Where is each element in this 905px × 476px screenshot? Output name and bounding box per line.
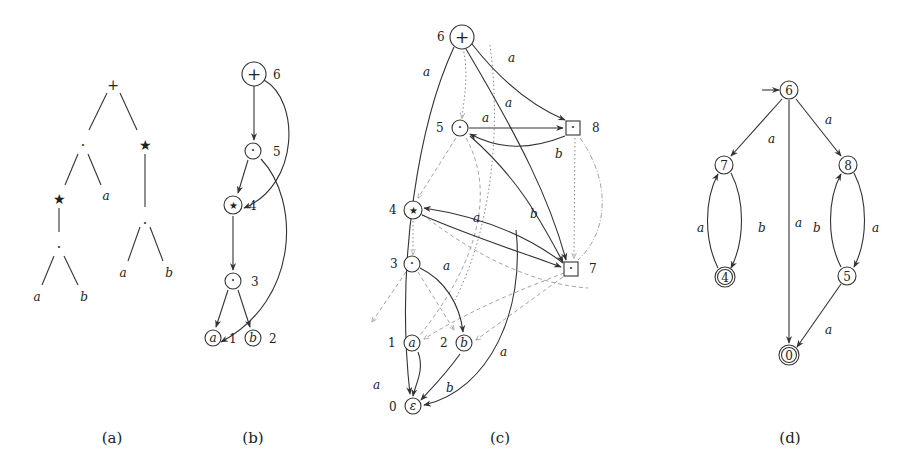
panel-d-automaton: a a a b a a b a 6 7 8 4 5 [697,81,879,365]
graph-node-2: b 2 [440,335,472,351]
svg-text:+: + [455,27,469,47]
svg-text:b: b [249,331,257,345]
svg-text:6: 6 [437,30,445,44]
graph-node-0: ε 0 [389,398,421,414]
svg-text:b: b [813,221,821,235]
tree-node-concat: · [81,137,85,153]
graph-node-6: + 6 [437,25,474,49]
svg-text:7: 7 [589,262,597,276]
svg-text:1: 1 [388,336,396,350]
edge-label: a [373,378,380,392]
svg-text:2: 2 [440,336,448,350]
svg-text:6: 6 [785,84,793,98]
tree-node-star: ★ [53,191,66,207]
svg-text:★: ★ [409,205,418,216]
svg-text:5: 5 [843,270,851,284]
svg-text:b: b [460,336,468,350]
svg-text:a: a [872,221,879,235]
svg-text:a: a [795,216,802,230]
svg-text:a: a [408,336,415,350]
svg-text:0: 0 [785,349,793,363]
graph-node-7: · 7 [564,260,597,276]
caption-d: (d) [779,429,800,447]
svg-text:a: a [209,331,216,345]
svg-text:a: a [697,221,704,235]
svg-text:5: 5 [436,121,444,135]
svg-text:7: 7 [720,159,728,173]
tree-node-star: ★ [139,137,152,153]
state-5: 5 [838,267,856,285]
svg-text:·: · [231,272,235,288]
svg-text:·: · [458,119,462,135]
tree-leaf-a: a [119,266,126,280]
tree-leaf-a: a [102,189,109,203]
panel-b-dag: + 6 · 5 ★ 4 · 3 a 1 b 2 [205,62,289,346]
state-7: 7 [715,156,733,174]
tree-leaf-b: b [165,266,173,280]
svg-text:3: 3 [251,275,259,289]
svg-text:★: ★ [229,200,238,211]
panel-d-transitions [708,90,865,347]
graph-node-1: a 1 [388,335,420,351]
captions: (a) (b) (c) (d) [102,429,801,447]
panel-c-auxiliary-edges [372,36,602,340]
edge-label: a [473,211,480,225]
edge-label: a [443,259,450,273]
state-6: 6 [780,81,798,99]
svg-text:a: a [825,323,832,337]
state-0-final: 0 [779,345,799,365]
caption-b: (b) [242,429,263,447]
svg-text:6: 6 [273,68,281,82]
svg-text:1: 1 [229,332,237,346]
svg-text:5: 5 [273,145,281,159]
dag-node-6: + 6 [242,62,281,86]
panel-d-transition-labels: a a a b a a b a [697,113,879,337]
tree-node-concat: · [57,239,61,255]
edge-label: b [446,381,454,395]
svg-text:b: b [758,221,766,235]
svg-text:4: 4 [249,199,257,213]
graph-node-8: · 8 [566,119,600,135]
edge-label: a [508,51,515,65]
tree-node-plus: + [107,77,119,93]
svg-text:2: 2 [269,332,277,346]
edge-label: a [505,96,512,110]
dag-node-2: b 2 [245,330,277,346]
state-4-final: 4 [715,267,735,287]
svg-text:·: · [251,142,255,158]
caption-a: (a) [102,429,123,447]
graph-node-4: ★ 4 [389,201,422,219]
tree-node-concat: · [143,215,147,231]
state-8: 8 [839,156,857,174]
panel-c-transition-edges [406,44,566,405]
svg-text:ε: ε [410,399,416,413]
edge-label: b [555,147,563,161]
edge-label: a [482,111,489,125]
panel-c-construction-graph: a a a a b b a a a a b + 6 · 5 · 8 [372,25,602,414]
svg-text:·: · [571,119,575,135]
dag-node-4: ★ 4 [224,196,257,214]
dag-node-3: · 3 [225,272,259,289]
edge-label: b [530,207,538,221]
svg-text:0: 0 [389,400,397,414]
edge-label: a [423,65,430,79]
edge-label: a [500,345,507,359]
figure: + · ★ ★ a · · a b a b + 6 · 5 [0,0,905,476]
svg-text:+: + [247,64,261,84]
tree-leaf-b: b [80,290,88,304]
svg-text:3: 3 [390,257,398,271]
svg-text:8: 8 [592,121,600,135]
graph-node-5: · 5 [436,119,468,136]
svg-text:a: a [768,132,775,146]
svg-text:·: · [410,255,414,271]
svg-text:4: 4 [389,203,397,217]
dag-node-1: a 1 [205,330,237,346]
tree-leaf-a: a [33,290,40,304]
graph-node-3: · 3 [390,255,420,272]
svg-text:8: 8 [844,159,852,173]
svg-text:a: a [825,113,832,127]
svg-text:·: · [569,260,573,276]
dag-node-5: · 5 [245,142,281,159]
caption-c: (c) [490,429,510,447]
svg-text:4: 4 [721,271,729,285]
